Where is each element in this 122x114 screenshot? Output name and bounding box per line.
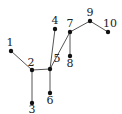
edge-2-5 [32, 69, 50, 70]
node-1 [9, 49, 13, 53]
node-label-4: 4 [52, 14, 59, 27]
node-9 [88, 19, 92, 23]
node-label-1: 1 [7, 36, 14, 49]
node-5 [48, 67, 52, 71]
node-label-10: 10 [103, 17, 117, 30]
tree-diagram: 12345678910 [0, 0, 122, 114]
node-7 [68, 30, 72, 34]
node-label-2: 2 [28, 56, 35, 69]
node-label-6: 6 [47, 94, 54, 107]
node-label-5: 5 [54, 52, 61, 65]
node-label-7: 7 [67, 17, 74, 30]
node-label-3: 3 [29, 103, 36, 114]
node-label-9: 9 [87, 6, 94, 19]
node-4 [53, 27, 57, 31]
node-10 [106, 30, 110, 34]
node-label-8: 8 [67, 57, 74, 70]
tree-diagram-svg: 12345678910 [0, 0, 122, 114]
label-group: 12345678910 [7, 6, 118, 114]
